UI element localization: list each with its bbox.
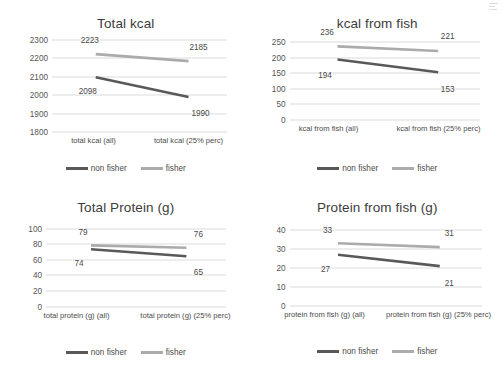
x-axis-labels-total-kcal: total kcal (all)total kcal (25% perc) [46,136,236,146]
data-label: 76 [194,230,203,239]
y-axis-tick-label: 40 [33,271,42,280]
series-line-fisher [338,243,440,247]
x-axis-category-label: kcal from fish (all) [274,124,384,134]
legend-swatch-icon [141,351,163,354]
legend-label: fisher [417,347,437,356]
plot-area-total-kcal: 2300220021002000190018002223218520981990 [52,40,227,132]
data-label: 153 [441,85,455,94]
series-line-fisher [91,245,186,247]
chart-panel-total-protein: Total Protein (g) 10080604020079767465 t… [0,187,252,373]
y-axis-tick-label: 2300 [30,36,48,45]
data-label: 1990 [191,109,209,118]
legend-label: non fisher [91,348,127,357]
legend-swatch-icon [392,167,414,170]
chart-title-total-kcal: Total kcal [0,16,252,31]
y-axis-tick-label: 20 [276,263,285,272]
legend-item-fisher[interactable]: fisher [392,347,437,356]
chart-title-total-protein: Total Protein (g) [0,200,252,215]
plot-area-kcal-from-fish: 250200150100500236221194153 [290,42,480,120]
y-axis-tick-label: 80 [33,240,42,249]
series-line-fisher [96,54,189,61]
legend-swatch-icon [317,167,339,170]
legend-swatch-icon [317,350,339,353]
data-label: 27 [321,265,330,274]
legend-kcal-from-fish: non fisherfisher [252,164,503,173]
y-axis-tick-label: 150 [272,69,286,78]
y-axis-tick-label: 2000 [30,91,48,100]
data-label: 194 [318,71,332,80]
legend-label: fisher [166,348,186,357]
legend-label: non fisher [342,164,378,173]
legend-label: non fisher [91,164,127,173]
legend-label: fisher [166,164,186,173]
legend-swatch-icon [66,167,88,170]
series-line-non-fisher [96,77,189,97]
data-label: 33 [323,225,332,234]
x-axis-category-label: total protein (g) (25% perc) [131,311,240,321]
legend-item-non-fisher[interactable]: non fisher [317,164,378,173]
y-axis-tick-label: 100 [28,224,42,233]
plot-area-protein-from-fish: 40302010033312721 [290,230,482,306]
legend-swatch-icon [392,350,414,353]
chart-grid: Total kcal 23002200210020001900180022232… [0,0,503,373]
x-axis-labels-protein-from-fish: protein from fish (g) (all)protein from … [268,310,496,320]
data-label: 2098 [79,87,97,96]
legend-item-fisher[interactable]: fisher [141,164,186,173]
data-label: 21 [445,278,454,287]
legend-label: fisher [417,164,437,173]
y-axis-tick-label: 250 [272,38,286,47]
series-line-non-fisher [338,254,440,265]
chart-panel-kcal-from-fish: kcal from fish 2502001501005002362211941… [252,0,503,187]
y-axis-tick-label: 50 [276,100,285,109]
data-label: 2185 [189,43,207,52]
y-axis-tick-label: 40 [276,225,285,234]
data-label: 221 [441,32,455,41]
legend-item-fisher[interactable]: fisher [392,164,437,173]
chart-panel-protein-from-fish: Protein from fish (g) 40302010033312721 … [252,187,503,373]
x-axis-category-label: total kcal (25% perc) [141,136,236,146]
legend-total-kcal: non fisherfisher [0,164,252,173]
y-axis-tick-label: 10 [276,282,285,291]
legend-item-non-fisher[interactable]: non fisher [317,347,378,356]
data-label: 79 [78,227,87,236]
legend-total-protein: non fisherfisher [0,348,252,357]
y-axis-tick-label: 2200 [30,54,48,63]
y-axis-tick-label: 100 [272,84,286,93]
y-axis-tick-label: 60 [33,255,42,264]
series-lines [290,230,482,306]
chart-panel-total-kcal: Total kcal 23002200210020001900180022232… [0,0,252,187]
data-label: 65 [194,267,203,276]
x-axis-category-label: total protein (g) (all) [22,311,131,321]
chart-title-protein-from-fish: Protein from fish (g) [252,200,503,215]
legend-label: non fisher [342,347,378,356]
y-axis-tick-label: 30 [276,244,285,253]
data-label: 236 [320,28,334,37]
x-axis-labels-kcal-from-fish: kcal from fish (all)kcal from fish (25% … [274,124,494,134]
x-axis-category-label: kcal from fish (25% perc) [384,124,494,134]
y-axis-tick-label: 200 [272,53,286,62]
legend-protein-from-fish: non fisherfisher [252,347,503,356]
chart-title-kcal-from-fish: kcal from fish [252,16,503,31]
legend-swatch-icon [141,167,163,170]
legend-item-non-fisher[interactable]: non fisher [66,164,127,173]
y-axis-tick-label: 20 [33,286,42,295]
y-axis-tick-label: 1900 [30,109,48,118]
x-axis-labels-total-protein: total protein (g) (all)total protein (g)… [22,311,240,321]
series-line-non-fisher [337,59,438,72]
series-line-fisher [337,46,438,51]
legend-item-fisher[interactable]: fisher [141,348,186,357]
data-label: 31 [445,228,454,237]
legend-swatch-icon [66,351,88,354]
x-axis-category-label: protein from fish (g) (all) [268,310,382,320]
series-lines [290,42,480,120]
x-axis-category-label: total kcal (all) [46,136,141,146]
plot-area-total-protein: 10080604020079767465 [46,229,226,307]
data-label: 2223 [81,36,99,45]
x-axis-category-label: protein from fish (g) (25% perc) [382,310,496,320]
series-line-non-fisher [91,249,186,256]
legend-item-non-fisher[interactable]: non fisher [66,348,127,357]
y-axis-tick-label: 2100 [30,72,48,81]
data-label: 74 [74,258,83,267]
